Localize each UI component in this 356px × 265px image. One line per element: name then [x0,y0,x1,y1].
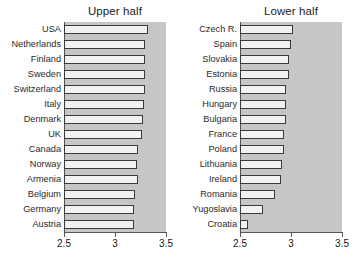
bar-category-label: Hungary [178,97,237,112]
bar-rows-lower-half: Czech R.SpainSlovakiaEstoniaRussiaHungar… [178,22,356,232]
x-axis-tick [291,233,292,237]
x-axis-tick [166,233,167,237]
bar-category-label: Lithuania [178,157,237,172]
x-axis-tick-label: 2.5 [57,238,71,249]
bar-row: Lithuania [178,157,356,172]
bar-category-label: Finland [0,52,61,67]
bar-row: Russia [178,82,356,97]
bar [240,100,286,109]
bar [240,115,286,124]
bar [64,145,138,154]
bar-category-label: Croatia [178,217,237,232]
chart-panel-lower-half: Lower half Czech R.SpainSlovakiaEstoniaR… [178,0,356,265]
bar [240,220,248,229]
bar-row: Austria [0,217,178,232]
bar-row: Germany [0,202,178,217]
bar [64,175,138,184]
bar-category-label: Ireland [178,172,237,187]
bar-category-label: Armenia [0,172,61,187]
bar [64,100,144,109]
bar-row: Croatia [178,217,356,232]
x-axis-tick-label: 3 [288,238,294,249]
x-axis-tick-label: 3 [112,238,118,249]
bar [64,130,142,139]
bar [64,70,145,79]
bar-category-label: Czech R. [178,22,237,37]
bar-category-label: Russia [178,82,237,97]
bar-category-label: Canada [0,142,61,157]
chart-panel-upper-half: Upper half USANetherlandsFinlandSwedenSw… [0,0,178,265]
bar-row: Yugoslavia [178,202,356,217]
bar-row: USA [0,22,178,37]
x-axis-tick [64,233,65,237]
bar [240,55,289,64]
bar-category-label: Yugoslavia [178,202,237,217]
bar [240,130,284,139]
bar [240,145,284,154]
bar-category-label: Switzerland [0,82,61,97]
bar-category-label: Italy [0,97,61,112]
bar-category-label: Poland [178,142,237,157]
bar-row: Switzerland [0,82,178,97]
bar [64,40,145,49]
chart-title-upper-half: Upper half [64,5,166,17]
bar-row: Romania [178,187,356,202]
bar-row: Slovakia [178,52,356,67]
bar [240,160,282,169]
bar-category-label: Romania [178,187,237,202]
bar-category-label: Austria [0,217,61,232]
bar-row: Norway [0,157,178,172]
bar-row: France [178,127,356,142]
bar-rows-upper-half: USANetherlandsFinlandSwedenSwitzerlandIt… [0,22,178,232]
bar [64,205,134,214]
bar [240,205,263,214]
bar [64,115,143,124]
figure-canvas: Upper half USANetherlandsFinlandSwedenSw… [0,0,356,265]
bar-category-label: Sweden [0,67,61,82]
bar-row: Estonia [178,67,356,82]
bar [240,85,286,94]
bar-row: Italy [0,97,178,112]
bar-row: Poland [178,142,356,157]
x-axis-tick [115,233,116,237]
bar-row: Sweden [0,67,178,82]
x-axis-tick [240,233,241,237]
bar-row: Finland [0,52,178,67]
bar [64,220,134,229]
bar-category-label: Denmark [0,112,61,127]
bar-category-label: USA [0,22,61,37]
bar-row: Hungary [178,97,356,112]
bar [240,175,281,184]
bar-category-label: Estonia [178,67,237,82]
bar-row: Armenia [0,172,178,187]
bar-category-label: Netherlands [0,37,61,52]
bar-row: Canada [0,142,178,157]
bar-category-label: Germany [0,202,61,217]
bar [240,190,275,199]
bar [240,70,289,79]
x-axis-tick-label: 2.5 [233,238,247,249]
bar-row: Bulgaria [178,112,356,127]
bar-row: Spain [178,37,356,52]
chart-title-lower-half: Lower half [240,5,342,17]
bar [240,25,293,34]
x-axis-tick-label: 3.5 [159,238,173,249]
bar-row: Netherlands [0,37,178,52]
x-axis-tick [342,233,343,237]
bar [64,160,137,169]
bar-category-label: Belgium [0,187,61,202]
bar-row: UK [0,127,178,142]
bar-row: Belgium [0,187,178,202]
bar-category-label: France [178,127,237,142]
bar [64,190,135,199]
bar-row: Ireland [178,172,356,187]
bar-row: Czech R. [178,22,356,37]
bar [240,40,291,49]
bar-category-label: Bulgaria [178,112,237,127]
bar [64,55,145,64]
bar-row: Denmark [0,112,178,127]
bar-category-label: Norway [0,157,61,172]
x-axis-tick-label: 3.5 [335,238,349,249]
bar-category-label: UK [0,127,61,142]
bar [64,25,148,34]
